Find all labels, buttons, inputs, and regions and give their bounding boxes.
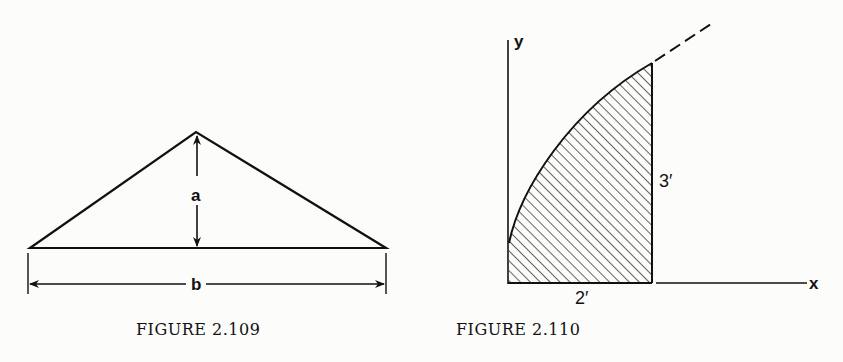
height-label-a: a xyxy=(191,187,200,204)
caption-figure-2-110: FIGURE 2.110 xyxy=(456,320,580,339)
figure-canvas: a b y x 3′ 2′ FIGURE 2.109 FIGURE 2.110 xyxy=(0,0,843,362)
x-axis-label: x xyxy=(809,275,818,292)
height-label-3ft: 3′ xyxy=(659,172,672,190)
caption-figure-2-109: FIGURE 2.109 xyxy=(136,320,260,339)
triangle-figure xyxy=(28,132,386,294)
diagram-drawing xyxy=(0,0,843,362)
shaded-region-figure xyxy=(508,24,807,284)
y-axis-label: y xyxy=(514,33,523,50)
width-label-2ft: 2′ xyxy=(575,289,588,307)
base-label-b: b xyxy=(191,276,201,293)
